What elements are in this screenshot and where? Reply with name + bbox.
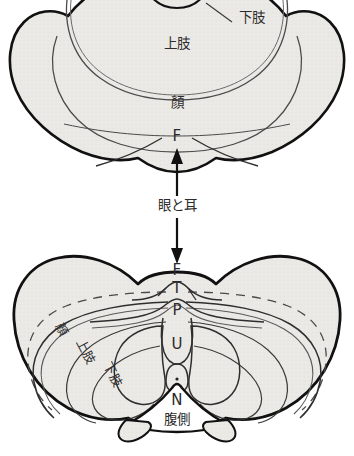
upper-label-upper-limb: 上肢 xyxy=(164,35,191,51)
connector-label-eye-and-ear: 眼と耳 xyxy=(158,197,197,213)
lower-label-ventral: 腹側 xyxy=(164,411,190,427)
lower-letter-u: U xyxy=(171,335,182,353)
upper-label-face: 顏 xyxy=(171,94,185,110)
lower-letter-n: N xyxy=(171,391,182,409)
upper-label-lower-limb: 下肢 xyxy=(239,9,266,25)
lower-letter-t: T xyxy=(171,279,182,297)
upper-label-f-marker: F xyxy=(173,127,182,145)
lower-letter-f: F xyxy=(173,261,182,279)
somatotopy-figure: 下肢 上肢 顏 F 眼と耳 xyxy=(0,0,354,456)
lower-letter-p: P xyxy=(172,301,181,319)
figure-root: 下肢 上肢 顏 F 眼と耳 xyxy=(0,0,354,456)
lower-central-n-dot xyxy=(175,377,178,380)
